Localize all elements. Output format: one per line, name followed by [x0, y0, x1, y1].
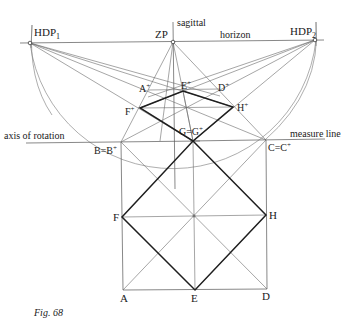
- point-zp: [171, 40, 175, 44]
- label-a-plus: A+: [139, 82, 150, 94]
- perspective-construction-diagram: HDP1 ZP sagittal horizon HDP2 A+ E+ D+ F…: [0, 0, 359, 323]
- hdp1-arc: [31, 25, 52, 115]
- figure-caption: Fig. 68: [33, 307, 63, 318]
- label-sagittal: sagittal: [177, 17, 206, 28]
- label-horizon: horizon: [220, 29, 251, 40]
- axis-of-rotation-line: [26, 141, 200, 143]
- point-center: [193, 215, 195, 217]
- ray-hdp1: [30, 43, 266, 140]
- label-f-plus: F+: [125, 105, 135, 117]
- label-measure-line: measure line: [290, 128, 341, 139]
- hdp2-arc: [265, 22, 317, 140]
- label-a: A: [120, 292, 128, 304]
- label-h: H: [269, 209, 277, 221]
- measure-line: [190, 139, 325, 141]
- point-hdp1: [28, 41, 32, 45]
- label-hdp2: HDP2: [290, 25, 316, 40]
- label-e: E: [191, 292, 198, 304]
- label-zp: ZP: [155, 28, 168, 40]
- label-b-eq-b-plus: B=B+: [94, 144, 117, 156]
- label-f: F: [113, 211, 119, 223]
- label-hdp1: HDP1: [34, 26, 60, 41]
- ray-zp: [121, 42, 173, 142]
- label-h-plus: H+: [237, 101, 248, 113]
- ray-zp: [160, 42, 173, 141]
- label-d: D: [262, 290, 270, 302]
- label-axis-of-rotation: axis of rotation: [4, 130, 65, 141]
- label-d-plus: D+: [218, 81, 229, 93]
- label-c-eq-c-plus: C=C+: [268, 141, 291, 153]
